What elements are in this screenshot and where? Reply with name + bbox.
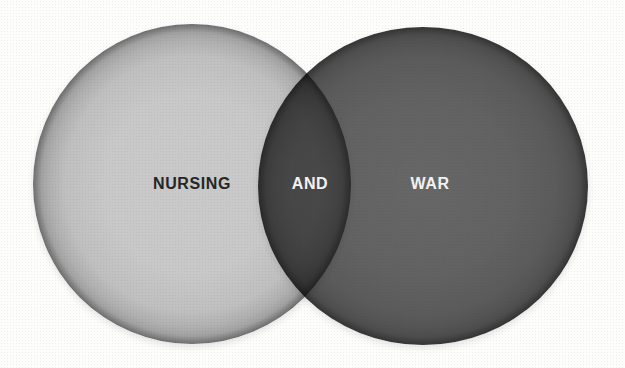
venn-labels-layer: NURSING AND WAR [0, 0, 625, 368]
label-intersection-and: AND [292, 175, 328, 193]
label-nursing: NURSING [153, 175, 231, 193]
venn-diagram: NURSING AND WAR [0, 0, 625, 368]
label-war: WAR [410, 175, 449, 193]
